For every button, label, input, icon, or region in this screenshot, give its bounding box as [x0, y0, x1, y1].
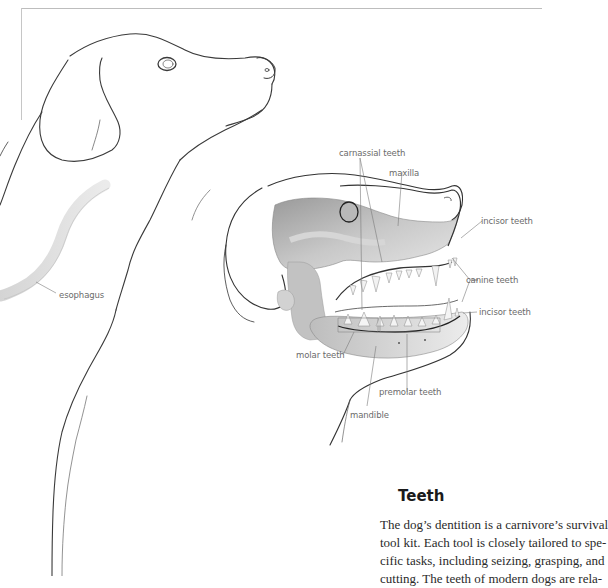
label-mandible: mandible — [350, 410, 389, 420]
skull — [272, 185, 468, 358]
body-line: tool kit. Each tool is closely tailored … — [380, 534, 542, 552]
label-molar-teeth: molar teeth — [296, 350, 345, 360]
section-body: The dog’s dentition is a carnivore’s sur… — [380, 516, 542, 588]
section-heading: Teeth — [398, 487, 444, 505]
label-premolar-teeth: premolar teeth — [379, 387, 441, 397]
label-carnassial-teeth: carnassial teeth — [339, 148, 405, 158]
dog-outline-back — [0, 34, 275, 576]
body-line: cific tasks, including seizing, grasping… — [380, 552, 542, 570]
label-esophagus: esophagus — [59, 290, 104, 300]
label-incisor-teeth-upper: incisor teeth — [481, 216, 533, 226]
body-line: cutting. The teeth of modern dogs are re… — [380, 570, 542, 588]
label-incisor-teeth-lower: incisor teeth — [479, 307, 531, 317]
body-line: The dog’s dentition is a carnivore’s sur… — [380, 516, 542, 534]
label-maxilla: maxilla — [389, 168, 419, 178]
label-canine-teeth: canine teeth — [466, 275, 518, 285]
